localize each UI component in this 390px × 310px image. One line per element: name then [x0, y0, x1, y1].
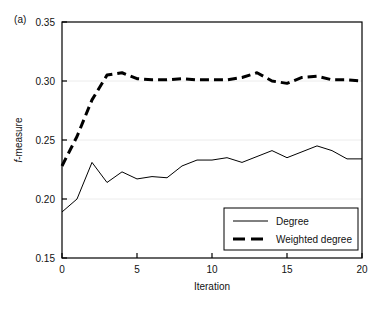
y-tick-label-2: 0.25 [36, 135, 56, 146]
legend-label-weighted-degree: Weighted degree [276, 234, 352, 245]
series-line-degree [62, 146, 362, 212]
y-tick-label-0: 0.15 [36, 253, 56, 264]
x-tick-label-3: 15 [281, 264, 293, 275]
y-axis-title-suffix: -measure [13, 117, 24, 160]
y-tick-label-3: 0.30 [36, 76, 56, 87]
x-tick-label-0: 0 [59, 264, 65, 275]
series-line-weighted-degree [62, 73, 362, 166]
figure-panel-a: (a) 0.150.200.250.300.35 05101520 Iterat… [0, 0, 390, 310]
gridlines [62, 81, 362, 199]
line-chart: 0.150.200.250.300.35 05101520 Iteration … [0, 0, 390, 310]
x-tick-label-4: 20 [356, 264, 368, 275]
y-tick-label-4: 0.35 [36, 17, 56, 28]
x-tick-label-1: 5 [134, 264, 140, 275]
series-layer [62, 73, 362, 212]
chart-legend[interactable]: Degree Weighted degree [224, 208, 358, 250]
y-tick-label-1: 0.20 [36, 194, 56, 205]
y-axis-title: f-measure [13, 117, 24, 162]
x-tick-label-2: 10 [206, 264, 218, 275]
x-axis: 05101520 [59, 253, 368, 275]
x-axis-title: Iteration [194, 281, 230, 292]
legend-label-degree: Degree [276, 216, 309, 227]
